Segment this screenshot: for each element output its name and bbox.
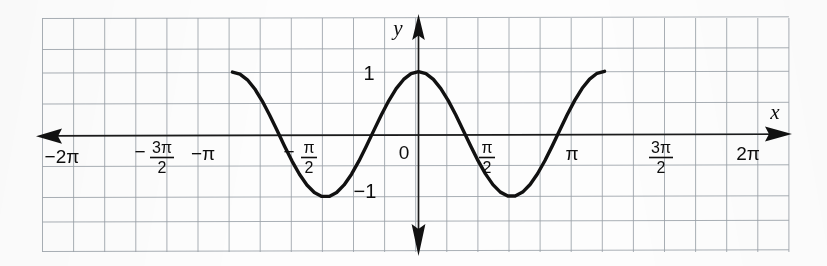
origin-label: 0 [399, 142, 410, 163]
x-tick-pi-over-2-denominator: 2 [483, 159, 492, 176]
y-axis-label: y [391, 16, 403, 40]
y-tick-one: 1 [363, 62, 374, 84]
x-tick-minus-pi-over-2-denominator: 2 [305, 159, 314, 176]
graph-canvas: −2π − 3π 2 −π − π 2 0 π [0, 0, 827, 266]
x-tick-minus-3pi-over-2-denominator: 2 [158, 159, 167, 176]
x-tick-3pi-over-2-denominator: 2 [657, 159, 666, 176]
x-tick-minus-pi: −π [191, 143, 215, 164]
x-tick-minus-2pi: −2π [45, 146, 80, 167]
x-tick-3pi-over-2-numerator: 3π [651, 139, 671, 156]
x-tick-minus-3pi-over-2-numerator: 3π [152, 139, 172, 156]
x-tick-minus-3pi-over-2-sign: − [134, 141, 145, 162]
x-tick-pi-over-2-numerator: π [481, 139, 492, 156]
x-axis-label: x [769, 100, 780, 124]
x-tick-pi: π [565, 143, 578, 164]
x-tick-2pi: 2π [736, 143, 760, 164]
cosine-graph-figure: −2π − 3π 2 −π − π 2 0 π [0, 0, 827, 266]
x-tick-minus-pi-over-2-numerator: π [303, 139, 314, 156]
y-tick-minus-one: −1 [354, 180, 377, 202]
x-tick-minus-pi-over-2-sign: − [283, 141, 294, 162]
